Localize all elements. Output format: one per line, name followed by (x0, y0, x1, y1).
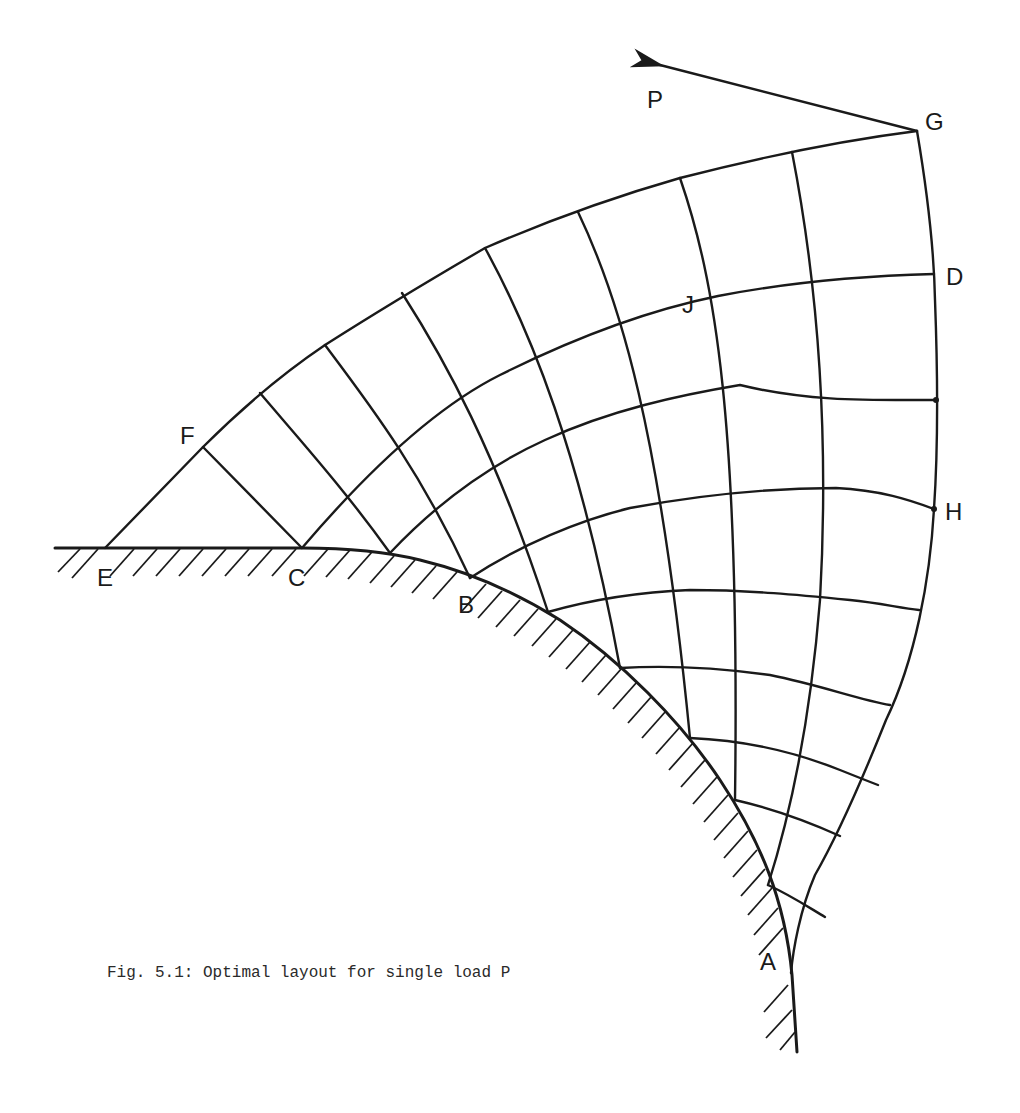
outer-arc-top (105, 131, 917, 548)
label-D: D (946, 265, 963, 289)
label-C: C (288, 566, 305, 590)
truss-layout-diagram (0, 0, 1020, 1113)
label-A: A (760, 950, 776, 974)
label-H: H (945, 500, 962, 524)
outer-arc-right (791, 131, 937, 973)
label-P: P (647, 88, 663, 112)
label-E: E (97, 566, 113, 590)
node-dot-mid-right (933, 397, 939, 403)
label-G: G (925, 110, 944, 134)
label-F: F (180, 424, 195, 448)
figure-caption: Fig. 5.1: Optimal layout for single load… (107, 964, 510, 982)
load-arrow (660, 65, 917, 131)
members (203, 152, 936, 917)
label-B: B (458, 593, 474, 617)
label-J: J (682, 293, 694, 317)
node-dot-h (931, 506, 937, 512)
